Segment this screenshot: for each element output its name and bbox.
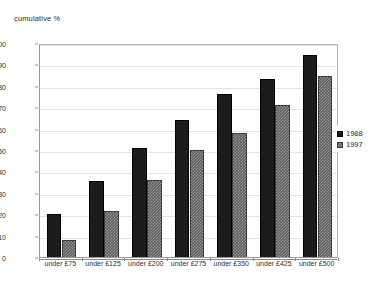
y-axis-tick-label: 10: [0, 233, 6, 240]
y-axis-tick-mark: [35, 129, 38, 130]
y-axis-tick-label: 100: [0, 41, 6, 48]
y-axis: 0102030405060708090100: [0, 0, 39, 292]
x-axis-tick-label: under £200: [128, 260, 163, 267]
bar-group: [40, 45, 83, 257]
bar-1988-3: [132, 148, 147, 257]
bar-chart: cumulative % 0102030405060708090100 unde…: [0, 0, 391, 292]
bars-layer: [40, 45, 337, 257]
x-axis: under £75under £125under £200under £275u…: [0, 260, 391, 274]
bar-1988-5: [217, 94, 232, 257]
x-axis-tick-label: under £425: [256, 260, 291, 267]
bar-1997-5: [232, 133, 247, 257]
bar-1988-6: [260, 79, 275, 257]
bar-1997-4: [190, 150, 205, 257]
y-axis-tick-mark: [35, 193, 38, 194]
bar-1988-2: [89, 181, 104, 257]
plot-area: [39, 44, 338, 258]
x-axis-tick-mark: [210, 258, 211, 261]
x-axis-tick-mark: [338, 258, 339, 261]
bar-1997-3: [147, 180, 162, 257]
x-axis-tick-mark: [124, 258, 125, 261]
y-axis-tick-label: 70: [0, 105, 6, 112]
y-axis-tick-label: 80: [0, 83, 6, 90]
bar-1997-2: [104, 211, 119, 257]
legend-swatch-icon: [337, 142, 343, 148]
legend-item-1997[interactable]: 1997: [337, 139, 363, 150]
y-axis-tick-mark: [35, 151, 38, 152]
bar-1988-7: [303, 55, 318, 257]
y-axis-tick-label: 90: [0, 62, 6, 69]
bar-group: [211, 45, 254, 257]
y-axis-tick-label: 40: [0, 169, 6, 176]
bar-1988-4: [175, 120, 190, 257]
x-axis-tick-label: under £125: [85, 260, 120, 267]
y-axis-tick-mark: [35, 258, 38, 259]
x-axis-tick-mark: [167, 258, 168, 261]
bar-1997-6: [275, 105, 290, 257]
y-axis-tick-mark: [35, 86, 38, 87]
bar-group: [83, 45, 126, 257]
legend-label: 1997: [346, 140, 363, 149]
x-axis-tick-label: under £75: [45, 260, 77, 267]
bar-1988-1: [47, 214, 62, 257]
bar-group: [168, 45, 211, 257]
chart-legend: 19881997: [336, 126, 365, 152]
x-axis-tick-mark: [82, 258, 83, 261]
y-axis-tick-mark: [35, 172, 38, 173]
bar-1997-7: [318, 76, 333, 257]
y-axis-tick-label: 50: [0, 148, 6, 155]
legend-item-1988[interactable]: 1988: [337, 128, 363, 139]
y-axis-tick-mark: [35, 236, 38, 237]
x-axis-tick-label: under £500: [299, 260, 334, 267]
x-axis-tick-mark: [295, 258, 296, 261]
bar-group: [254, 45, 297, 257]
y-axis-tick-mark: [35, 44, 38, 45]
x-axis-tick-label: under £275: [171, 260, 206, 267]
y-axis-tick-label: 60: [0, 126, 6, 133]
bar-group: [296, 45, 339, 257]
bar-group: [125, 45, 168, 257]
bar-1997-1: [62, 240, 77, 257]
y-axis-tick-mark: [35, 65, 38, 66]
legend-label: 1988: [346, 129, 363, 138]
y-axis-tick-mark: [35, 108, 38, 109]
x-axis-tick-label: under £350: [213, 260, 248, 267]
x-axis-tick-mark: [253, 258, 254, 261]
y-axis-tick-mark: [35, 215, 38, 216]
y-axis-tick-label: 20: [0, 212, 6, 219]
x-axis-tick-mark: [39, 258, 40, 261]
legend-swatch-icon: [337, 131, 343, 137]
y-axis-tick-label: 30: [0, 190, 6, 197]
